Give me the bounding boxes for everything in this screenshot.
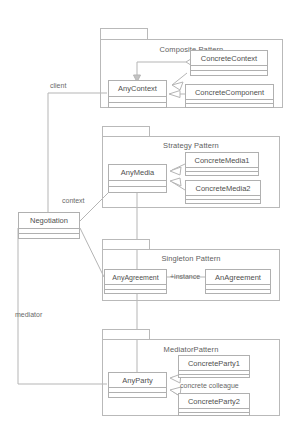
diagram-canvas: Composite Pattern AnyContext ConcreteCon… (0, 0, 290, 443)
package-title-strategy: Strategy Pattern (103, 141, 279, 150)
class-name-concretemedia1: ConcreteMedia1 (186, 153, 258, 168)
class-name-negotiation: Negotiation (19, 213, 79, 229)
class-name-anycontext: AnyContext (109, 81, 166, 97)
class-name-anyparty: AnyParty (109, 373, 166, 388)
class-box-anycontext[interactable]: AnyContext (108, 80, 167, 108)
class-name-anyagreement: AnyAgreement (105, 270, 166, 285)
class-operations-anycontext (109, 103, 166, 108)
class-name-concretecontext: ConcreteContext (191, 51, 267, 66)
class-box-anyagreement[interactable]: AnyAgreement (104, 269, 167, 294)
class-name-concreteparty2: ConcreteParty2 (179, 394, 249, 409)
package-title-singleton: Singleton Pattern (103, 254, 279, 263)
class-box-concreteparty2[interactable]: ConcreteParty2 (178, 393, 250, 416)
class-box-concretecomponent[interactable]: ConcreteComponent (185, 84, 274, 108)
class-name-anymedia: AnyMedia (109, 165, 166, 181)
role-label-client: client (50, 82, 66, 89)
class-operations-concretecomponent (186, 104, 273, 107)
class-name-concreteparty1: ConcreteParty1 (179, 356, 249, 371)
class-name-anagreement: AnAgreement (206, 270, 270, 285)
class-name-concretemedia2: ConcreteMedia2 (186, 181, 260, 196)
role-label-mediator: mediator (15, 311, 42, 318)
class-box-anyparty[interactable]: AnyParty (108, 372, 167, 398)
class-box-concretecontext[interactable]: ConcreteContext (190, 50, 268, 76)
class-operations-anymedia (109, 187, 166, 192)
class-operations-anyparty (109, 393, 166, 397)
line-negotiation-to-anyagreement (80, 228, 104, 277)
role-label-context: context (62, 197, 85, 204)
class-operations-negotiation (19, 234, 79, 238)
class-operations-concreteparty2 (179, 413, 249, 416)
class-operations-anagreement (206, 290, 270, 294)
association-label-concrete-colleague: concrete colleague (180, 382, 239, 389)
class-name-concretecomponent: ConcreteComponent (186, 85, 273, 100)
package-title-mediator: MediatorPattern (103, 345, 279, 354)
class-operations-concreteparty1 (179, 375, 249, 378)
class-box-anymedia[interactable]: AnyMedia (108, 164, 167, 193)
class-operations-concretemedia1 (186, 172, 258, 175)
class-box-anagreement[interactable]: AnAgreement (205, 269, 271, 294)
class-operations-concretemedia2 (186, 200, 260, 203)
class-operations-anyagreement (105, 290, 166, 294)
class-box-concretemedia1[interactable]: ConcreteMedia1 (185, 152, 259, 176)
class-box-negotiation[interactable]: Negotiation (18, 212, 80, 239)
class-box-concretemedia2[interactable]: ConcreteMedia2 (185, 180, 261, 204)
class-box-concreteparty1[interactable]: ConcreteParty1 (178, 355, 250, 378)
class-operations-concretecontext (191, 71, 267, 75)
association-label-instance: +instance (170, 273, 200, 280)
